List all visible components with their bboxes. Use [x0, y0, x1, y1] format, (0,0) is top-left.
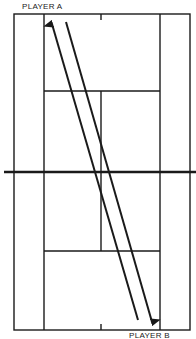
- player-b-label: PLAYER B: [129, 331, 170, 339]
- tennis-court-diagram: [0, 0, 196, 339]
